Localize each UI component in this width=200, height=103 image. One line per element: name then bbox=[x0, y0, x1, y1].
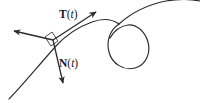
tangent-symbol: T bbox=[59, 8, 67, 20]
vector-calculus-figure: T(t) N(t) bbox=[0, 0, 200, 103]
tangent-close-paren: ) bbox=[74, 8, 78, 20]
curve-exit-segment bbox=[119, 0, 200, 24]
figure-canvas bbox=[0, 0, 200, 103]
normal-vector-label: N(t) bbox=[59, 58, 78, 70]
space-curve-with-loop bbox=[9, 0, 200, 99]
tangent-vector-label: T(t) bbox=[59, 9, 78, 21]
curve-loop bbox=[108, 24, 149, 69]
normal-close-paren: ) bbox=[74, 57, 78, 69]
